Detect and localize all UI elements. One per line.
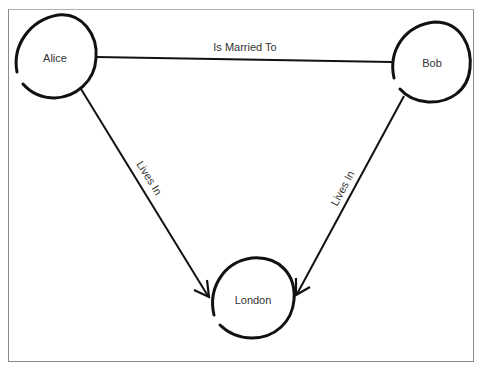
node-bob[interactable]: Bob [393,22,470,102]
edge-label-married: Is Married To [213,41,276,53]
edge-bob-london: Lives In [296,96,404,295]
edge-alice-bob: Is Married To [96,41,392,62]
edge-label-lives-in-alice: Lives In [134,159,164,198]
node-label-london: London [235,294,272,306]
graph-canvas: Is Married To Lives In Lives In Alice Bo… [0,0,483,371]
node-alice[interactable]: Alice [16,15,96,98]
node-london[interactable]: London [213,258,295,338]
node-label-alice: Alice [43,52,67,64]
edge-label-lives-in-bob: Lives In [328,169,356,208]
node-label-bob: Bob [422,57,442,69]
edge-alice-london: Lives In [81,89,209,297]
